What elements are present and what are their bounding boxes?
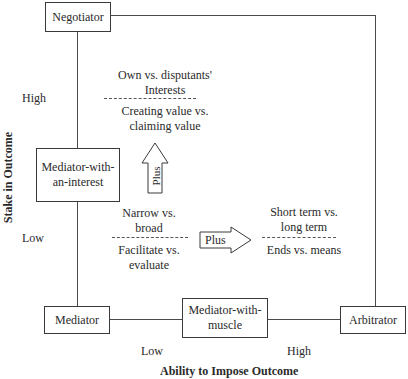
middle-dimension-upper: Narrow vs. broad bbox=[100, 206, 198, 236]
y-axis-high-label: High bbox=[22, 91, 46, 106]
right-dim-line3: Ends vs. means bbox=[254, 243, 354, 258]
mediator-muscle-label-line2: muscle bbox=[208, 318, 242, 333]
top-dim-line1: Own vs. disputants' bbox=[100, 68, 230, 83]
right-dimension-divider bbox=[262, 237, 336, 238]
x-axis-title: Ability to Impose Outcome bbox=[160, 364, 298, 379]
middle-dim-line2: broad bbox=[100, 221, 198, 236]
negotiator-label: Negotiator bbox=[52, 10, 103, 25]
mediator-with-muscle-box: Mediator-with- muscle bbox=[182, 298, 268, 338]
top-dimension-lower: Creating value vs. claiming value bbox=[100, 104, 230, 134]
middle-dim-line1: Narrow vs. bbox=[100, 206, 198, 221]
top-dim-line3: Creating value vs. bbox=[100, 104, 230, 119]
top-dimension-divider bbox=[104, 98, 196, 99]
right-dim-line2: long term bbox=[254, 220, 354, 235]
connector-mediator-muscle bbox=[110, 319, 182, 320]
mediator-muscle-label-line1: Mediator-with- bbox=[188, 303, 261, 318]
mediator-interest-label-line1: Mediator-with- bbox=[41, 160, 114, 175]
connector-negotiator-arbitrator-top bbox=[110, 15, 375, 16]
mediator-with-an-interest-box: Mediator-with- an-interest bbox=[36, 148, 120, 202]
right-arrow-label: Plus bbox=[205, 233, 226, 248]
arbitrator-box: Arbitrator bbox=[340, 306, 406, 334]
y-axis-low-label: Low bbox=[22, 231, 44, 246]
middle-dimension-lower: Facilitate vs. evaluate bbox=[100, 243, 198, 273]
right-dimension-upper: Short term vs. long term bbox=[254, 205, 354, 235]
x-axis-high-label: High bbox=[287, 344, 311, 359]
middle-dim-line3: Facilitate vs. bbox=[100, 243, 198, 258]
y-axis-title: Stake in Outcome bbox=[1, 128, 16, 228]
top-dim-line2: Interests bbox=[100, 83, 230, 98]
mediator-label: Mediator bbox=[55, 313, 99, 328]
right-dim-line1: Short term vs. bbox=[254, 205, 354, 220]
x-axis-low-label: Low bbox=[141, 344, 163, 359]
right-dimension-lower: Ends vs. means bbox=[254, 243, 354, 258]
middle-dim-line4: evaluate bbox=[100, 258, 198, 273]
connector-mediator-interest-mediator bbox=[77, 202, 78, 306]
top-dimension-upper: Own vs. disputants' Interests bbox=[100, 68, 230, 98]
mediator-interest-label-line2: an-interest bbox=[53, 175, 104, 190]
negotiator-box: Negotiator bbox=[45, 2, 111, 32]
mediator-box: Mediator bbox=[44, 306, 110, 334]
middle-dimension-divider bbox=[112, 237, 188, 238]
connector-muscle-arbitrator bbox=[268, 319, 340, 320]
arbitrator-label: Arbitrator bbox=[349, 313, 397, 328]
connector-right-vertical bbox=[375, 15, 376, 306]
top-dim-line4: claiming value bbox=[100, 119, 230, 134]
up-arrow-label: Plus bbox=[150, 160, 162, 192]
connector-negotiator-mediator-interest bbox=[77, 32, 78, 148]
